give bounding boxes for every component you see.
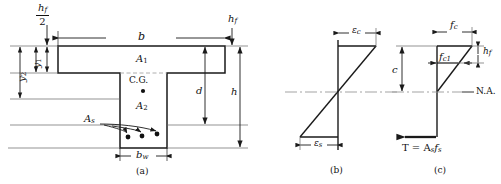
rebar-dots bbox=[126, 132, 160, 140]
section-extension-lines bbox=[8, 46, 248, 148]
label-concrete-stress: fc bbox=[450, 20, 458, 31]
label-concrete-strain: εc bbox=[352, 26, 361, 36]
label-web-width: bw bbox=[136, 150, 148, 161]
label-effective-depth: d bbox=[196, 86, 202, 96]
label-neutral-axis-depth: c bbox=[392, 65, 398, 75]
centroid-dot bbox=[141, 89, 145, 93]
figure-vector-layer bbox=[0, 0, 501, 184]
label-flange-bottom-stress: fc1 bbox=[439, 52, 451, 63]
label-tension-force: T = Asfs bbox=[402, 143, 442, 154]
label-stress-flange-thickness: hf bbox=[483, 47, 491, 57]
strain-diagram-vector bbox=[285, 28, 400, 150]
figure-root: hf 2 hf b y2 y1 A1 C.G. A2 As d h bw bbox=[0, 0, 501, 184]
caption-b: (b) bbox=[330, 165, 343, 175]
label-y1: y1 bbox=[33, 58, 43, 68]
caption-c: (c) bbox=[434, 165, 446, 175]
label-y2: y2 bbox=[17, 72, 28, 82]
caption-a: (a) bbox=[136, 166, 148, 176]
label-neutral-axis: N.A. bbox=[476, 87, 496, 96]
label-steel-area: As bbox=[84, 114, 95, 125]
label-web-area: A2 bbox=[136, 101, 148, 112]
stress-diagram-vector bbox=[392, 27, 484, 137]
label-flange-width: b bbox=[138, 31, 145, 42]
label-centroid: C.G. bbox=[129, 76, 148, 85]
label-steel-strain: εs bbox=[314, 139, 322, 149]
label-total-depth: h bbox=[231, 87, 237, 97]
label-half-flange-thickness: hf 2 bbox=[36, 3, 49, 28]
label-flange-area: A1 bbox=[136, 54, 148, 65]
label-flange-thickness: hf bbox=[228, 14, 237, 25]
